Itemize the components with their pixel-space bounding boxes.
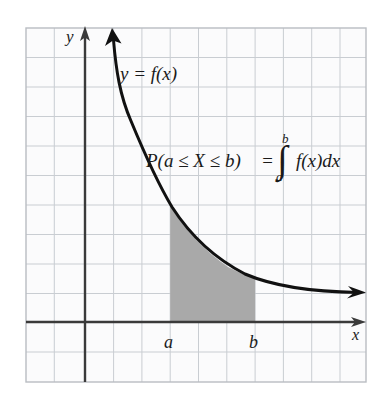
curve-label: y = f(x) [118, 63, 177, 85]
y-axis-label: y [64, 27, 74, 46]
lower-bound-label-a: a [164, 332, 173, 352]
formula-probability-expression: P(a ≤ X ≤ b) [145, 150, 241, 172]
integral-lower-limit: a [276, 169, 283, 184]
probability-density-figure: y x y = f(x) a b P(a ≤ X ≤ b) = ∫ b a f(… [0, 0, 383, 399]
formula-equals-sign: = [261, 150, 274, 171]
upper-bound-label-b: b [249, 332, 258, 352]
x-axis-label: x [351, 326, 359, 343]
integral-upper-limit: b [282, 131, 289, 146]
formula-integrand: f(x)dx [296, 150, 341, 172]
